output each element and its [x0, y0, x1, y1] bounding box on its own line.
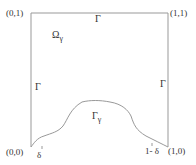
tick-label-one-minus-delta: 1- δ [145, 147, 159, 156]
corner-label-top-left: (0,1) [6, 9, 23, 18]
tick-label-delta: δ [37, 151, 41, 160]
domain-figure [0, 0, 196, 165]
corner-label-top-right: (1,1) [170, 9, 187, 18]
boundary-label-top: Γ [95, 14, 101, 23]
corner-label-bottom-left: (0,0) [6, 148, 23, 157]
boundary-label-left: Γ [35, 82, 41, 91]
region-label-omega: Ωγ [52, 30, 63, 40]
boundary-label-right: Γ [160, 79, 166, 88]
corner-label-bottom-right: (1,0) [168, 147, 185, 156]
curve-label-gamma: Γγ [92, 111, 101, 121]
